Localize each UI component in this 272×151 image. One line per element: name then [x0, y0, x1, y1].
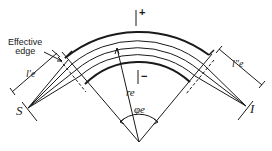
- source-slit: [22, 102, 37, 121]
- source-label: S: [16, 104, 23, 117]
- effective-edge-line2: edge: [8, 47, 42, 56]
- radius-label: re: [126, 87, 135, 98]
- l-double-prime-label: l″e: [232, 59, 243, 69]
- beam-arc-1: [72, 41, 203, 64]
- l-prime-label: l′e: [26, 69, 35, 79]
- beam-arc-2: [76, 48, 199, 70]
- effective-edge-label: Effective edge: [8, 38, 42, 56]
- minus-sign: −: [141, 71, 147, 82]
- angle-arc: [120, 114, 158, 122]
- angle-label: φe: [134, 104, 145, 115]
- right-boundary: [139, 54, 212, 142]
- sector-magnet-diagram: [0, 0, 272, 151]
- plus-sign: +: [139, 7, 145, 18]
- image-label: I: [250, 102, 254, 115]
